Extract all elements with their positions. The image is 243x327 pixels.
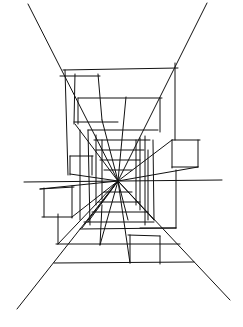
sketch-lines xyxy=(0,0,243,327)
perspective-sketch xyxy=(0,0,243,327)
